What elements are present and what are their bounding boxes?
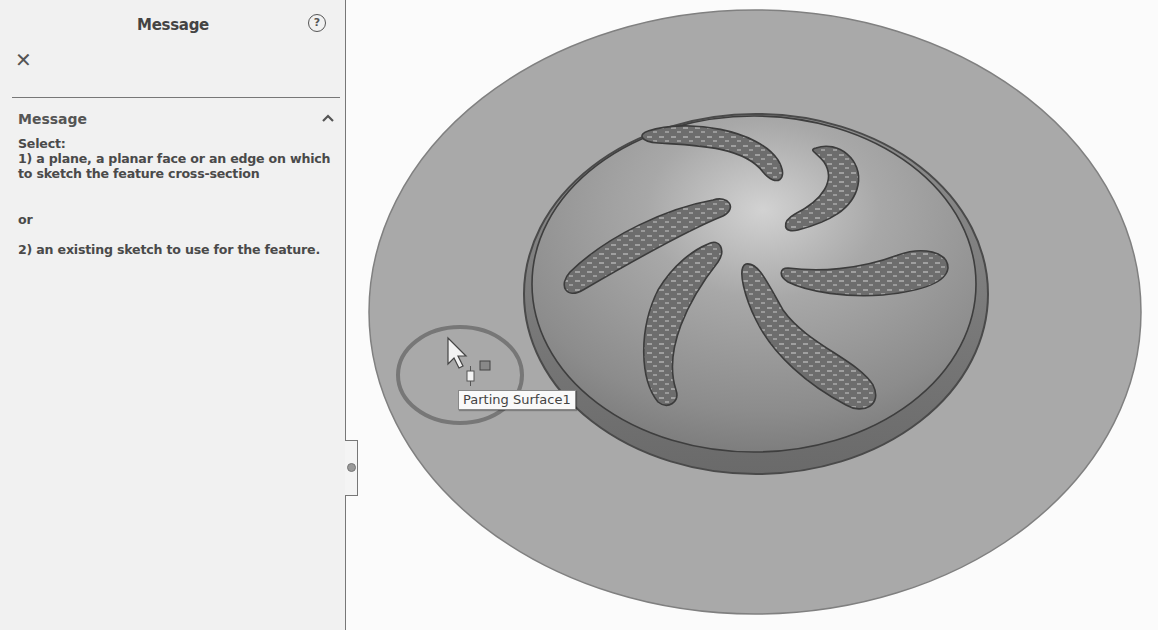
question-circle-icon[interactable]: ? bbox=[308, 14, 326, 32]
model-view[interactable] bbox=[358, 0, 1158, 630]
message-line-option2: 2) an existing sketch to use for the fea… bbox=[18, 242, 336, 257]
panel-splitter-handle[interactable] bbox=[345, 440, 358, 496]
divider bbox=[12, 97, 340, 98]
close-icon[interactable]: ✕ bbox=[15, 50, 32, 70]
message-line-or: or bbox=[18, 212, 336, 227]
panel-title: Message bbox=[0, 16, 346, 34]
property-manager-panel: Message ? ✕ Message Select: 1) a plane, … bbox=[0, 0, 346, 630]
message-body: Select: 1) a plane, a planar face or an … bbox=[18, 136, 336, 257]
message-line-option1: 1) a plane, a planar face or an edge on … bbox=[18, 151, 336, 181]
message-section-header[interactable]: Message bbox=[12, 108, 340, 130]
section-label: Message bbox=[18, 111, 87, 127]
graphics-viewport[interactable]: Parting Surface1 bbox=[358, 0, 1158, 630]
entity-tooltip: Parting Surface1 bbox=[458, 390, 576, 410]
splitter-grip-icon bbox=[347, 463, 356, 472]
chevron-up-icon[interactable] bbox=[322, 112, 334, 124]
message-line-select: Select: bbox=[18, 136, 336, 151]
